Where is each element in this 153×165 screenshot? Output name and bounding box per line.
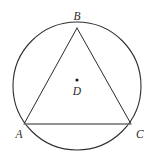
triangle-side-bc <box>77 28 131 124</box>
center-point-dot <box>75 78 78 81</box>
vertex-label-b: B <box>73 11 80 23</box>
geometry-figure: B A C D <box>0 0 153 165</box>
triangle-side-ab <box>24 28 77 124</box>
vertex-label-a: A <box>15 129 22 141</box>
vertex-label-c: C <box>136 129 144 141</box>
center-label-d: D <box>73 86 82 98</box>
geometry-canvas <box>0 0 153 165</box>
